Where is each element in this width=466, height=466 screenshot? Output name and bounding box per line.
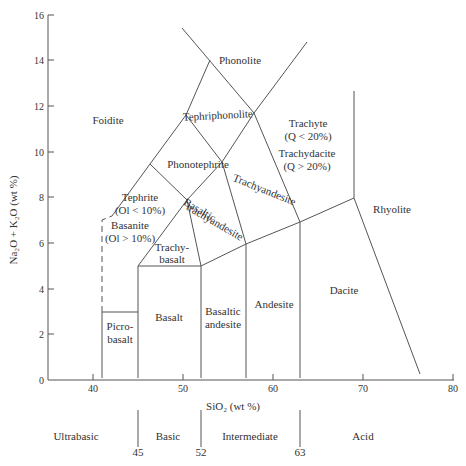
field-basanite-note: (Ol > 10%) xyxy=(105,232,156,245)
class-ultrabasic: Ultrabasic xyxy=(53,430,98,442)
field-picrobasalt: Picro- xyxy=(107,320,134,332)
silica-classes: Ultrabasic Basic Intermediate Acid 45 52… xyxy=(53,410,374,458)
svg-text:70: 70 xyxy=(358,383,368,394)
x-axis-label: SiO₂ (wt %) xyxy=(206,400,260,413)
field-trachyte: Trachyte xyxy=(289,117,328,129)
x-ticks xyxy=(93,374,453,380)
field-basaltic-trachyandesite-2: trachyandesite xyxy=(184,200,245,242)
tas-diagram: 16 14 12 10 8 6 4 2 0 40 50 60 70 80 SiO… xyxy=(0,0,466,466)
field-tephrite-note: (Ol < 10%) xyxy=(115,204,166,217)
field-andesite: Andesite xyxy=(254,298,293,310)
class-basic: Basic xyxy=(156,430,181,442)
y-ticks xyxy=(48,15,54,334)
svg-text:4: 4 xyxy=(39,284,44,295)
svg-text:2: 2 xyxy=(39,329,44,340)
field-basanite: Basanite xyxy=(111,219,149,231)
field-tephriphonolite: Tephriphonolite xyxy=(182,107,253,123)
x-tick-labels: 40 50 60 70 80 xyxy=(88,383,458,394)
boundary-52: 52 xyxy=(196,446,207,458)
field-rhyolite: Rhyolite xyxy=(373,203,411,215)
field-trachybasalt: Trachy- xyxy=(155,241,190,253)
class-intermediate: Intermediate xyxy=(222,430,278,442)
y-axis-label: Na₂O + K₂O (wt %) xyxy=(7,175,20,264)
svg-text:50: 50 xyxy=(178,383,188,394)
field-foidite: Foidite xyxy=(92,114,123,126)
field-trachyandesite: Trachyandesite xyxy=(231,171,298,207)
svg-text:60: 60 xyxy=(268,383,278,394)
field-picrobasalt-2: basalt xyxy=(107,333,133,345)
field-basaltic-andesite: Basaltic xyxy=(205,305,241,317)
svg-text:16: 16 xyxy=(34,10,44,21)
field-basalt: Basalt xyxy=(155,311,183,323)
field-phonolite: Phonolite xyxy=(219,54,261,66)
svg-text:12: 12 xyxy=(34,101,44,112)
field-tephrite: Tephrite xyxy=(122,191,159,203)
svg-text:10: 10 xyxy=(34,147,44,158)
field-labels: Foidite Phonolite Tephriphonolite Phonot… xyxy=(92,54,411,345)
svg-text:8: 8 xyxy=(39,192,44,203)
field-trachybasalt-2: basalt xyxy=(159,253,185,265)
field-dacite: Dacite xyxy=(330,284,359,296)
svg-text:40: 40 xyxy=(88,383,98,394)
svg-text:14: 14 xyxy=(34,55,44,66)
svg-text:6: 6 xyxy=(39,238,44,249)
boundary-63: 63 xyxy=(295,446,307,458)
class-acid: Acid xyxy=(352,430,374,442)
field-basaltic-andesite-2: andesite xyxy=(205,318,241,330)
y-tick-labels: 16 14 12 10 8 6 4 2 0 xyxy=(34,10,44,386)
field-trachydacite: Trachydacite xyxy=(278,147,335,159)
field-trachyte-note: (Q < 20%) xyxy=(284,130,331,143)
field-phonotephrite: Phonotephrite xyxy=(167,158,229,170)
field-trachydacite-note: (Q > 20%) xyxy=(283,160,330,173)
svg-text:80: 80 xyxy=(448,383,458,394)
boundary-45: 45 xyxy=(133,446,145,458)
svg-text:0: 0 xyxy=(39,375,44,386)
